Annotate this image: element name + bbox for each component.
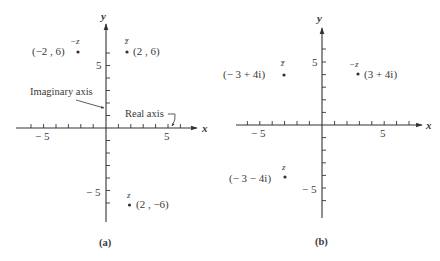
point-coord-label: (− 3 + 4i) [223,68,265,81]
point-coord-label: (2 , 6) [133,45,160,58]
complex-plane-figure: x y − 5 5 5 − 5 Imaginary axis Real axis… [0,0,440,261]
point-z: z (2 , −6) [126,190,169,211]
point-z-conjugate: (− 3 + 4i) z̅ [223,59,286,81]
y-axis-label: y [99,10,106,22]
panel-caption-a: (a) [99,237,112,249]
panel-caption-b: (b) [315,236,328,248]
real-axis-leader [168,114,175,126]
point-coord-label: (2 , −6) [136,198,169,211]
x-axis-label: x [425,119,432,131]
imaginary-axis-annotation: Imaginary axis [30,86,93,97]
point-coord-label: (− 3 − 4i) [229,172,271,185]
point-name: z [126,190,131,200]
point-neg-z: −z (3 + 4i) [349,59,397,81]
point-name: −z [349,59,359,69]
x-tick-label-neg5: − 5 [251,127,266,139]
point-coord-label: (3 + 4i) [364,68,397,81]
point-z: (− 3 − 4i) z [229,162,287,185]
y-tick-label-5: 5 [312,56,318,68]
y-tick-label-neg5: − 5 [86,186,101,198]
y-axis-label: y [315,12,322,24]
real-axis-annotation: Real axis [125,108,164,119]
point-name: −z [70,36,80,46]
imaginary-axis-leader [76,100,104,108]
point-name: z̅ [124,37,129,46]
panel-a: x y − 5 5 5 − 5 Imaginary axis Real axis… [16,10,208,249]
x-ticks [247,121,409,125]
x-tick-label-5: 5 [164,130,170,142]
point-name: z̅ [280,59,285,68]
point-neg-z: −z (−2 , 6) [32,36,80,58]
point-z-conjugate: z̅ (2 , 6) [124,37,160,58]
panel-b: x y − 5 5 5 − 5 (− 3 + 4i) z̅ −z (3 + 4i… [223,12,432,248]
x-tick-label-5: 5 [380,127,386,139]
x-axis-label: x [201,122,208,134]
point-coord-label: (−2 , 6) [32,45,65,58]
x-tick-label-neg5: − 5 [35,130,50,142]
y-tick-label-neg5: − 5 [302,183,317,195]
y-tick-label-5: 5 [96,59,102,71]
point-name: z [281,162,286,172]
